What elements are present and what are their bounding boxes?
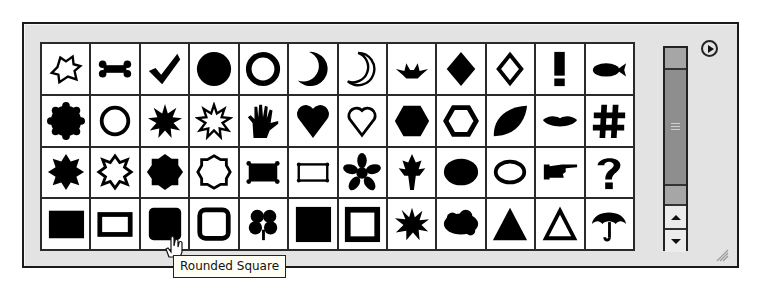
heart-frame-icon	[343, 102, 381, 140]
shape-oval-frame[interactable]	[487, 148, 534, 198]
heart-icon	[294, 102, 332, 140]
shape-oval[interactable]	[437, 148, 484, 198]
shape-exclamation[interactable]	[536, 44, 583, 94]
shape-heart[interactable]	[289, 96, 336, 146]
shape-heart-frame[interactable]	[339, 96, 386, 146]
circle-play-menu-icon	[708, 45, 714, 53]
shape-sign-frame[interactable]	[190, 148, 237, 198]
shape-question-mark[interactable]	[586, 148, 633, 198]
shape-tooltip: Rounded Square	[173, 255, 286, 278]
shape-blob-outline[interactable]	[42, 44, 89, 94]
shape-maple-leaf[interactable]	[388, 148, 435, 198]
clover-icon	[244, 205, 282, 243]
shape-banner[interactable]	[240, 148, 287, 198]
shape-triangle[interactable]	[487, 199, 534, 249]
shape-pointing-hand[interactable]	[536, 148, 583, 198]
shape-checkmark[interactable]	[141, 44, 188, 94]
shape-square-frame[interactable]	[91, 199, 138, 249]
seal-frame-icon	[96, 102, 134, 140]
shape-moon-frame[interactable]	[339, 44, 386, 94]
banner-frame-icon	[294, 153, 332, 191]
sun-frame-icon	[195, 102, 233, 140]
shape-crown[interactable]	[388, 44, 435, 94]
shape-square[interactable]	[42, 199, 89, 249]
flower-icon	[343, 153, 381, 191]
question-mark-icon	[590, 153, 628, 191]
moon-frame-icon	[343, 50, 381, 88]
hexagon-icon	[393, 102, 431, 140]
seal-icon	[47, 102, 85, 140]
shape-lips[interactable]	[536, 96, 583, 146]
shape-tall-square-frame[interactable]	[339, 199, 386, 249]
vertical-scrollbar[interactable]	[663, 46, 688, 251]
scroll-up-button[interactable]	[665, 206, 686, 230]
shape-octagon-star-frame[interactable]	[91, 148, 138, 198]
shape-diamond[interactable]	[437, 44, 484, 94]
oval-icon	[442, 153, 480, 191]
shape-tall-square[interactable]	[289, 199, 336, 249]
bone-icon	[96, 50, 134, 88]
banner-icon	[244, 153, 282, 191]
umbrella-icon	[590, 205, 628, 243]
hash-icon	[590, 102, 628, 140]
shape-grid	[40, 42, 635, 251]
shape-bone[interactable]	[91, 44, 138, 94]
shape-circle[interactable]	[190, 44, 237, 94]
shape-rounded-square-frame[interactable]	[190, 199, 237, 249]
shape-moon[interactable]	[289, 44, 336, 94]
shape-circle-frame[interactable]	[240, 44, 287, 94]
grip-lines-icon	[671, 123, 680, 131]
scrollbar-track-lower[interactable]	[665, 186, 686, 206]
shape-cloud[interactable]	[437, 199, 484, 249]
maple-leaf-icon	[393, 153, 431, 191]
circle-frame-icon	[244, 50, 282, 88]
fish-icon	[590, 50, 628, 88]
tall-square-icon	[294, 205, 332, 243]
circle-icon	[195, 50, 233, 88]
starburst-icon	[393, 205, 431, 243]
shape-octagon-star[interactable]	[42, 148, 89, 198]
triangle-frame-icon	[541, 205, 579, 243]
crown-icon	[393, 50, 431, 88]
scrollbar-track-upper[interactable]	[665, 48, 686, 70]
shape-flower[interactable]	[339, 148, 386, 198]
shape-leaf[interactable]	[487, 96, 534, 146]
shape-umbrella[interactable]	[586, 199, 633, 249]
shape-fish[interactable]	[586, 44, 633, 94]
cloud-icon	[442, 205, 480, 243]
tall-square-frame-icon	[343, 205, 381, 243]
blob-outline-icon	[47, 50, 85, 88]
shape-hexagon-frame[interactable]	[437, 96, 484, 146]
shape-hand[interactable]	[240, 96, 287, 146]
shape-seal-frame[interactable]	[91, 96, 138, 146]
shape-sun[interactable]	[141, 96, 188, 146]
shape-hexagon[interactable]	[388, 96, 435, 146]
octagon-star-frame-icon	[96, 153, 134, 191]
shape-sun-frame[interactable]	[190, 96, 237, 146]
square-icon	[47, 205, 85, 243]
panel-menu-button[interactable]	[701, 40, 718, 57]
octagon-star-icon	[47, 153, 85, 191]
shape-clover[interactable]	[240, 199, 287, 249]
scrollbar-thumb[interactable]	[665, 70, 686, 186]
shape-sign[interactable]	[141, 148, 188, 198]
shape-starburst[interactable]	[388, 199, 435, 249]
sun-icon	[146, 102, 184, 140]
scroll-down-button[interactable]	[665, 230, 686, 252]
checkmark-icon	[146, 50, 184, 88]
sign-icon	[146, 153, 184, 191]
resize-grip-icon[interactable]	[713, 246, 729, 262]
exclamation-icon	[541, 50, 579, 88]
leaf-icon	[491, 102, 529, 140]
hand-icon	[244, 102, 282, 140]
arrow-up-icon	[671, 215, 681, 220]
shape-triangle-frame[interactable]	[536, 199, 583, 249]
moon-icon	[294, 50, 332, 88]
shape-hash[interactable]	[586, 96, 633, 146]
shape-seal[interactable]	[42, 96, 89, 146]
arrow-down-icon	[671, 239, 681, 244]
square-frame-icon	[96, 205, 134, 243]
hexagon-frame-icon	[442, 102, 480, 140]
shape-banner-frame[interactable]	[289, 148, 336, 198]
shape-diamond-frame[interactable]	[487, 44, 534, 94]
